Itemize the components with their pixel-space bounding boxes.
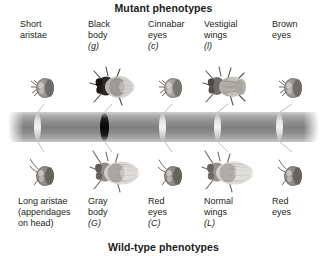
drosophila-phenotype-map: Mutant phenotypes Short aristae Black bo…: [0, 0, 327, 259]
allele-vestigial-wings: (l): [204, 41, 212, 51]
mutant-phenotypes-title: Mutant phenotypes: [0, 2, 327, 14]
allele-red-eyes-left: (C): [148, 218, 161, 228]
fly-art-normal-wings: [198, 150, 260, 196]
label-normal-wings: Normal wings (L): [204, 196, 233, 230]
label-cinnabar-eyes: Cinnabar eyes (c): [148, 19, 185, 53]
allele-black-body: (g): [88, 41, 99, 51]
fly-art-long-aristae: [30, 158, 60, 192]
fly-art-red-eyes-right: [278, 158, 308, 192]
chromosome: [8, 112, 319, 142]
fly-art-cinnabar-eyes: [158, 72, 188, 104]
chromosome-band-1: [34, 113, 41, 141]
label-black-body: Black body (g): [88, 19, 110, 53]
fly-art-vestigial-wings: [200, 64, 258, 110]
label-short-aristae: Short aristae: [20, 19, 47, 41]
fly-art-brown-eyes: [278, 72, 308, 104]
allele-cinnabar-eyes: (c): [148, 41, 159, 51]
wildtype-phenotypes-title: Wild-type phenotypes: [0, 241, 327, 253]
label-gray-body: Gray body (G): [88, 196, 108, 230]
label-red-eyes-left: Red eyes (C): [148, 196, 167, 230]
chromosome-band-2: [159, 113, 166, 141]
chromosome-centromere-band: [100, 113, 109, 141]
label-red-eyes-right: Red eyes: [272, 196, 291, 218]
fly-art-black-body: [86, 64, 144, 110]
fly-art-red-eyes-left: [158, 158, 188, 192]
allele-normal-wings: (L): [204, 218, 215, 228]
allele-gray-body: (G): [88, 218, 101, 228]
fly-art-short-aristae: [30, 72, 60, 104]
label-long-aristae: Long aristae (appendages on head): [18, 196, 71, 230]
fly-art-gray-body: [86, 150, 148, 196]
label-brown-eyes: Brown eyes: [272, 19, 298, 41]
chromosome-band-3: [214, 113, 221, 141]
chromosome-band-4: [276, 113, 283, 141]
label-vestigial-wings: Vestigial wings (l): [204, 19, 238, 53]
